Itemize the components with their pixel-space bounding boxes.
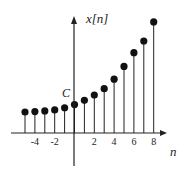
y-axis-label: x[n]: [85, 11, 108, 26]
x-tick-labels: -4-22468: [31, 136, 156, 147]
stem-marker: [101, 85, 108, 92]
x-tick-label: -2: [51, 136, 59, 147]
stem-marker: [140, 37, 147, 44]
x-tick-label: -4: [31, 136, 39, 147]
stem-marker: [91, 91, 98, 98]
stem-marker: [111, 76, 118, 83]
intercept-label: C: [62, 86, 71, 100]
x-tick-label: 8: [151, 136, 156, 147]
x-tick-label: 2: [92, 136, 97, 147]
stem-marker: [41, 107, 48, 114]
stem-marker: [51, 106, 58, 113]
stem-marker: [21, 108, 28, 115]
stems-group: [21, 18, 157, 133]
stem-marker: [31, 108, 38, 115]
stem-marker: [61, 104, 68, 111]
stem-marker: [130, 49, 137, 56]
stem-marker: [120, 63, 127, 70]
x-tick-label: 6: [131, 136, 136, 147]
x-axis-arrow-icon: [160, 130, 167, 136]
stem-marker: [150, 18, 157, 25]
y-axis-arrow-icon: [71, 16, 77, 24]
x-tick-label: 4: [112, 136, 117, 147]
stem-plot: x[n] n C -4-22468: [0, 0, 187, 174]
x-axis-label: n: [170, 144, 177, 159]
stem-marker: [81, 97, 88, 104]
